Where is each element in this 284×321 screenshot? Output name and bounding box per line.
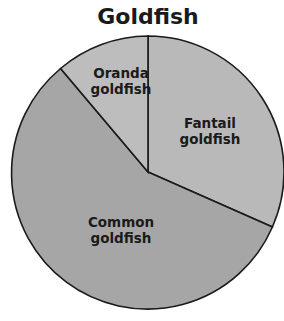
label-fantail-1: Fantail	[184, 115, 236, 131]
label-fantail-2: goldfish	[180, 131, 241, 147]
label-oranda-1: Oranda	[93, 65, 149, 81]
label-common-1: Common	[88, 214, 154, 230]
label-common-2: goldfish	[91, 230, 152, 246]
pie-chart: Fantail goldfish Oranda goldfish Common …	[0, 0, 284, 321]
label-oranda-2: goldfish	[91, 81, 152, 97]
